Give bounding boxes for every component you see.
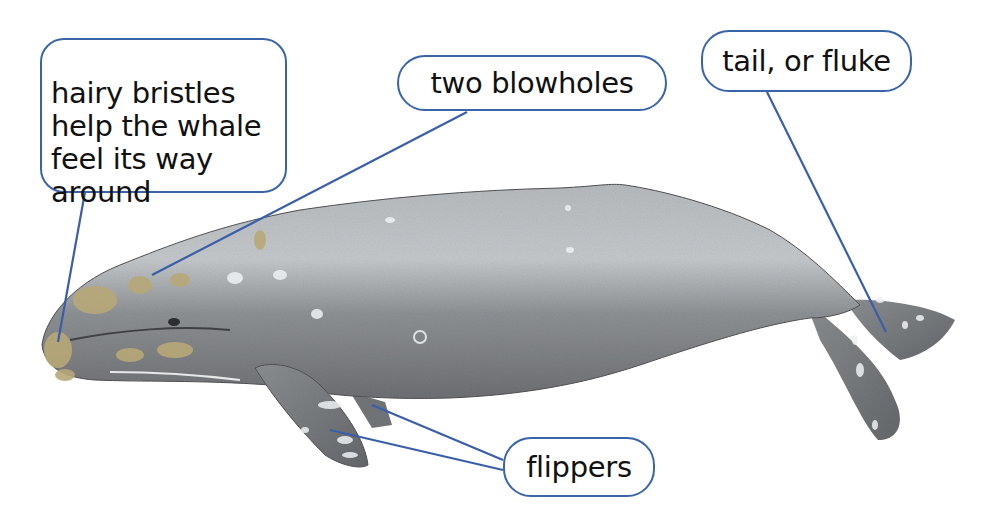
callout-flippers: flippers: [503, 437, 655, 497]
leader-flipper-rear: [372, 405, 503, 460]
eye: [168, 318, 180, 326]
callout-bristles-text: hairy bristles help the whale feel its w…: [51, 76, 261, 209]
callout-tail: tail, or fluke: [701, 30, 912, 92]
callout-tail-text: tail, or fluke: [722, 45, 891, 78]
callout-bristles: hairy bristles help the whale feel its w…: [40, 38, 287, 193]
whale-diagram: hairy bristles help the whale feel its w…: [0, 0, 989, 532]
callout-blowholes: two blowholes: [397, 55, 667, 111]
whale-body: [42, 184, 860, 398]
callout-flippers-text: flippers: [526, 451, 632, 484]
callout-blowholes-text: two blowholes: [430, 67, 633, 100]
